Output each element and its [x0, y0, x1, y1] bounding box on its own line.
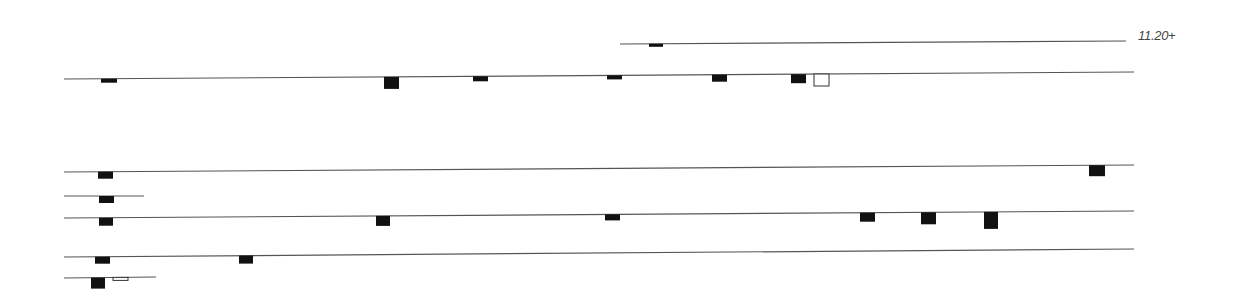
filled-marker: [376, 216, 390, 226]
filled-marker: [605, 214, 620, 220]
baseline-line-4: [64, 196, 144, 203]
baseline-line-1: [620, 41, 1126, 47]
baseline-line-6: [64, 249, 1134, 264]
filled-marker: [99, 218, 113, 226]
filled-marker: [1089, 165, 1105, 176]
open-marker: [814, 74, 829, 86]
filled-marker: [921, 212, 936, 224]
baseline: [64, 277, 156, 278]
filled-marker: [99, 196, 114, 203]
baseline-line-2: [64, 72, 1134, 89]
baseline: [620, 41, 1126, 44]
sequence-diagram: [0, 0, 1241, 302]
filled-marker: [239, 256, 253, 264]
baseline-line-5: [64, 211, 1134, 229]
baseline-line-3: [64, 165, 1134, 179]
filled-marker: [473, 76, 488, 81]
baseline: [64, 165, 1134, 172]
filled-marker: [712, 75, 727, 82]
baseline-line-7: [64, 277, 156, 289]
filled-marker: [607, 75, 622, 79]
open-marker: [113, 277, 128, 280]
baseline: [64, 211, 1134, 218]
baseline: [64, 249, 1134, 257]
baseline: [64, 72, 1134, 79]
filled-marker: [384, 77, 399, 89]
filled-marker: [649, 44, 663, 47]
filled-marker: [101, 79, 117, 83]
diagram-canvas: 11.20+: [0, 0, 1241, 302]
filled-marker: [95, 257, 110, 264]
filled-marker: [98, 172, 113, 179]
filled-marker: [91, 278, 105, 289]
line-value-label: 11.20+: [1138, 28, 1175, 43]
filled-marker: [984, 212, 998, 229]
filled-marker: [791, 74, 806, 83]
filled-marker: [860, 213, 875, 222]
